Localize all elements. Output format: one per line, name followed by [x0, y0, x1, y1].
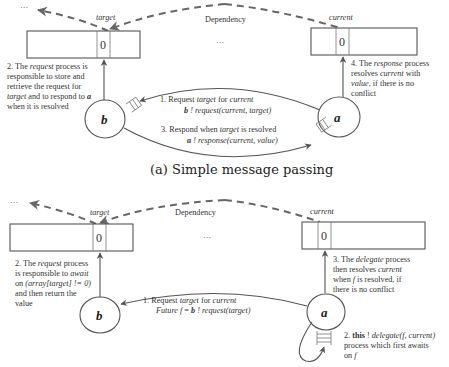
dependency-label: Dependency — [205, 15, 247, 24]
svg-text:value, if there is no: value, if there is no — [351, 79, 414, 88]
array-right: 0 — [311, 28, 417, 55]
svg-text:and then return the: and then return the — [15, 289, 77, 298]
dependency-arrow-from-current — [225, 200, 320, 222]
svg-text:then resolves current: then resolves current — [333, 265, 403, 274]
note-request-process: 2. The request process is responsible to… — [15, 259, 91, 308]
svg-text:a: a — [334, 110, 341, 125]
svg-text:4. The response process: 4. The response process — [351, 59, 429, 68]
svg-text:value: value — [15, 299, 33, 308]
array-left-label: target — [96, 13, 116, 22]
array-right-label: current — [310, 207, 335, 216]
svg-text:resolves current with: resolves current with — [351, 69, 420, 78]
svg-text:when it is resolved: when it is resolved — [7, 102, 69, 111]
note-request-process: 2. The request process is responsible to… — [7, 62, 91, 111]
note-response-process: 4. The response process resolves current… — [351, 59, 429, 98]
queue-icon — [126, 97, 142, 112]
diagram-a: ··· target Dependency current 0 ··· 0 2.… — [7, 3, 429, 177]
svg-text:b ! request(current, target): b ! request(current, target) — [184, 106, 272, 115]
array-left: 0 — [10, 224, 133, 251]
ellipsis-top-left: ··· — [10, 198, 18, 207]
svg-text:3. The delegate process: 3. The delegate process — [333, 255, 410, 264]
node-b: b — [85, 97, 142, 138]
svg-text:process which first awaits: process which first awaits — [344, 341, 429, 350]
node-a: a — [299, 294, 345, 361]
svg-text:conflict: conflict — [351, 89, 377, 98]
svg-text:on f: on f — [344, 351, 358, 360]
array-right-cell: 0 — [339, 35, 345, 49]
note-delegate-process: 3. The delegate process then resolves cu… — [333, 255, 410, 294]
queue-icon — [317, 331, 331, 345]
svg-text:2. this ! delegate(f, current): 2. this ! delegate(f, current) — [344, 331, 435, 340]
ellipsis-top-left: ··· — [20, 3, 28, 12]
svg-text:there is no conflict: there is no conflict — [333, 285, 395, 294]
svg-text:a: a — [321, 305, 328, 320]
message-request: 1. Request target for current Future f =… — [143, 296, 251, 315]
svg-text:3. Respond when target is reso: 3. Respond when target is resolved — [161, 125, 276, 134]
array-right: 0 — [302, 222, 425, 249]
node-a: a — [316, 97, 360, 137]
message-delegate: 2. this ! delegate(f, current) process w… — [344, 331, 435, 360]
svg-text:b: b — [96, 308, 103, 323]
dependency-arrow-left — [30, 203, 96, 224]
svg-text:1. Request target for curren: 1. Request target for current — [160, 95, 254, 104]
svg-text:retrieve the request for: retrieve the request for — [7, 82, 82, 91]
message-passing-figure: ··· target Dependency current 0 ··· 0 2.… — [0, 0, 449, 367]
svg-text:2. The request process is: 2. The request process is — [7, 62, 88, 71]
caption-a: (a) Simple message passing — [150, 162, 333, 177]
array-right-label: current — [329, 13, 354, 22]
diagram-b: ··· target Dependency current 0 ··· 0 2.… — [10, 198, 435, 361]
array-left-cell: 0 — [96, 231, 102, 245]
message-respond: 3. Respond when target is resolved a ! r… — [161, 125, 278, 145]
ellipsis-middle: ··· — [216, 38, 224, 47]
svg-text:is responsible to await: is responsible to await — [15, 269, 89, 278]
svg-text:a ! response(current, value): a ! response(current, value) — [187, 136, 278, 145]
svg-text:Future f = b ! request(target): Future f = b ! request(target) — [155, 306, 251, 315]
node-b: b — [80, 297, 120, 333]
svg-text:when f is resolved, if: when f is resolved, if — [333, 275, 402, 284]
svg-text:b: b — [101, 112, 108, 127]
array-left-cell: 0 — [100, 38, 106, 52]
svg-text:target and to respond to a: target and to respond to a — [7, 92, 91, 101]
array-left: 0 — [27, 31, 140, 58]
array-left-label: target — [90, 208, 110, 217]
svg-text:on (array[target] != 0): on (array[target] != 0) — [15, 279, 91, 288]
svg-text:responsible to store and: responsible to store and — [7, 72, 85, 81]
svg-text:2. The request process: 2. The request process — [15, 259, 88, 268]
array-right-cell: 0 — [321, 229, 327, 243]
ellipsis-middle: ··· — [203, 233, 211, 242]
dependency-label: Dependency — [175, 208, 217, 217]
svg-text:1. Request target for curren: 1. Request target for current — [143, 296, 237, 305]
message-request: 1. Request target for current b ! reques… — [160, 95, 272, 115]
